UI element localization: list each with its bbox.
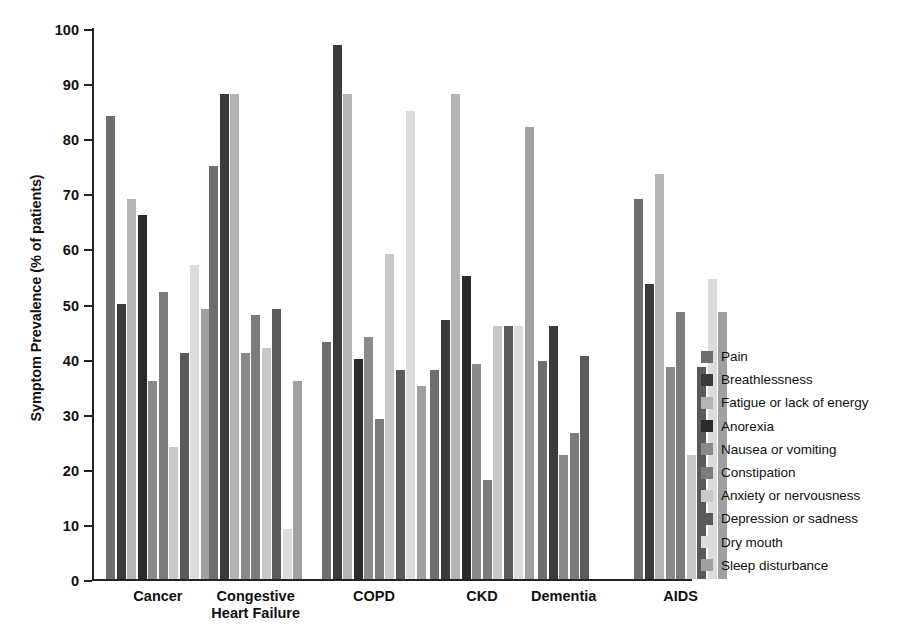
chart-legend: PainBreathlessnessFatigue or lack of ene… bbox=[701, 345, 868, 577]
bar bbox=[514, 326, 523, 579]
legend-swatch-icon bbox=[701, 467, 713, 479]
y-axis-tick-label: 80 bbox=[63, 132, 79, 148]
y-axis-tick: 90 bbox=[84, 84, 92, 86]
bar bbox=[570, 433, 579, 579]
legend-item: Sleep disturbance bbox=[701, 554, 868, 577]
bar bbox=[190, 265, 199, 579]
bar bbox=[343, 94, 352, 579]
bar bbox=[451, 94, 460, 579]
symptom-prevalence-bar-chart: Symptom Prevalence (% of patients) 01020… bbox=[0, 0, 900, 639]
bar bbox=[293, 381, 302, 579]
legend-label: Constipation bbox=[721, 465, 795, 480]
y-axis-tick-label: 90 bbox=[63, 77, 79, 93]
legend-item: Breathlessness bbox=[701, 368, 868, 391]
y-axis-tick-label: 10 bbox=[63, 518, 79, 534]
bar bbox=[138, 215, 147, 579]
bar bbox=[462, 276, 471, 579]
bar bbox=[375, 419, 384, 579]
bar bbox=[220, 94, 229, 579]
legend-label: Anorexia bbox=[721, 419, 774, 434]
legend-item: Constipation bbox=[701, 461, 868, 484]
plot-area: 0102030405060708090100 bbox=[92, 28, 692, 581]
bar bbox=[230, 94, 239, 579]
y-axis-tick-label: 60 bbox=[63, 242, 79, 258]
legend-label: Depression or sadness bbox=[721, 511, 858, 526]
bar bbox=[148, 381, 157, 579]
x-axis-line bbox=[92, 579, 692, 581]
bar bbox=[430, 370, 439, 579]
bar bbox=[159, 292, 168, 579]
legend-swatch-icon bbox=[701, 420, 713, 432]
bar bbox=[127, 199, 136, 579]
bar bbox=[504, 326, 513, 579]
bar bbox=[441, 320, 450, 579]
legend-swatch-icon bbox=[701, 490, 713, 502]
y-axis-tick-label: 20 bbox=[63, 463, 79, 479]
bar bbox=[493, 326, 502, 579]
bar bbox=[525, 127, 534, 579]
bar bbox=[472, 364, 481, 579]
bar bbox=[354, 359, 363, 579]
bar bbox=[655, 174, 664, 579]
bar bbox=[538, 361, 547, 579]
bar bbox=[417, 386, 426, 579]
legend-item: Dry mouth bbox=[701, 531, 868, 554]
legend-item: Depression or sadness bbox=[701, 507, 868, 530]
y-axis-tick: 10 bbox=[84, 525, 92, 527]
bar bbox=[666, 367, 675, 579]
bar bbox=[406, 111, 415, 579]
legend-swatch-icon bbox=[701, 536, 713, 548]
y-axis-tick-label: 50 bbox=[63, 298, 79, 314]
y-axis-tick: 40 bbox=[84, 360, 92, 362]
legend-label: Anxiety or nervousness bbox=[721, 488, 860, 503]
legend-label: Breathlessness bbox=[721, 372, 813, 387]
bar bbox=[687, 455, 696, 579]
bar bbox=[385, 254, 394, 579]
y-axis-title: Symptom Prevalence (% of patients) bbox=[28, 88, 44, 508]
bar bbox=[117, 304, 126, 580]
y-axis-tick: 20 bbox=[84, 470, 92, 472]
bar bbox=[106, 116, 115, 579]
bar bbox=[559, 455, 568, 579]
legend-swatch-icon bbox=[701, 351, 713, 363]
legend-item: Anorexia bbox=[701, 415, 868, 438]
legend-swatch-icon bbox=[701, 513, 713, 525]
legend-swatch-icon bbox=[701, 559, 713, 571]
bar bbox=[169, 447, 178, 579]
legend-item: Fatigue or lack of energy bbox=[701, 391, 868, 414]
bar bbox=[241, 353, 250, 579]
y-axis-tick-label: 30 bbox=[63, 408, 79, 424]
legend-swatch-icon bbox=[701, 443, 713, 455]
bar bbox=[283, 529, 292, 579]
y-axis-tick: 30 bbox=[84, 415, 92, 417]
bar bbox=[180, 353, 189, 579]
bar bbox=[676, 312, 685, 579]
y-axis-tick: 50 bbox=[84, 305, 92, 307]
bar bbox=[262, 348, 271, 579]
y-axis-tick: 70 bbox=[84, 194, 92, 196]
legend-swatch-icon bbox=[701, 374, 713, 386]
bar bbox=[333, 45, 342, 579]
bar bbox=[209, 166, 218, 579]
bar bbox=[251, 315, 260, 579]
bar bbox=[580, 356, 589, 579]
legend-swatch-icon bbox=[701, 397, 713, 409]
legend-item: Anxiety or nervousness bbox=[701, 484, 868, 507]
y-axis-tick-label: 70 bbox=[63, 187, 79, 203]
legend-label: Dry mouth bbox=[721, 535, 783, 550]
bar bbox=[396, 370, 405, 579]
y-axis-tick-label: 100 bbox=[55, 22, 79, 38]
y-axis-tick: 0 bbox=[84, 580, 92, 582]
y-axis-tick: 100 bbox=[84, 29, 92, 31]
legend-label: Fatigue or lack of energy bbox=[721, 395, 868, 410]
bar bbox=[645, 284, 654, 579]
y-axis-tick-label: 0 bbox=[71, 573, 79, 589]
bar bbox=[272, 309, 281, 579]
y-axis-tick: 60 bbox=[84, 249, 92, 251]
legend-label: Sleep disturbance bbox=[721, 558, 828, 573]
legend-item: Pain bbox=[701, 345, 868, 368]
y-axis-tick-label: 40 bbox=[63, 353, 79, 369]
bars-container bbox=[94, 28, 692, 579]
group-label-aids: AIDS bbox=[596, 588, 766, 605]
legend-label: Pain bbox=[721, 349, 748, 364]
